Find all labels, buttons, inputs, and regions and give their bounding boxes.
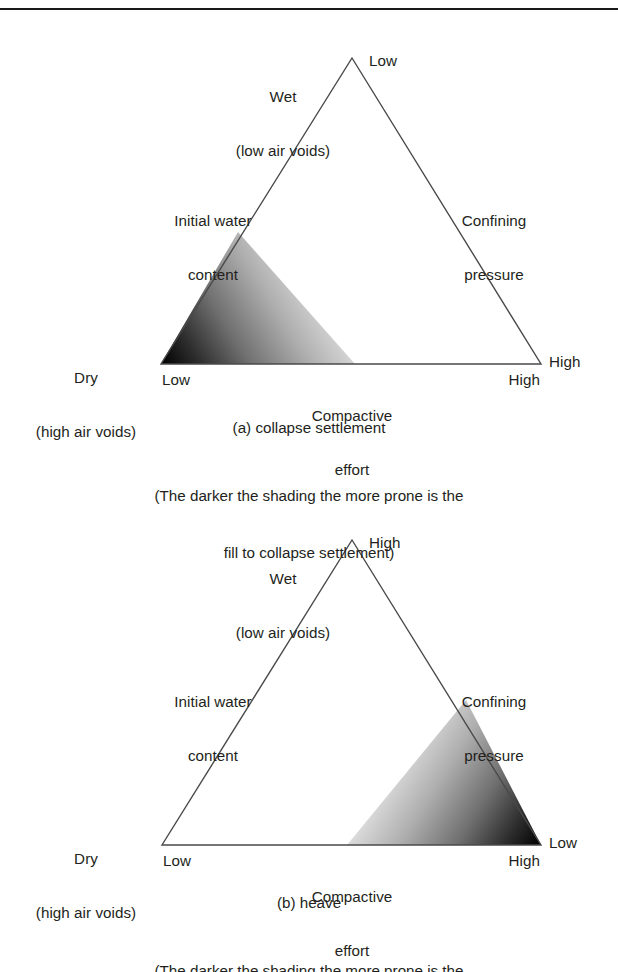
figure-b-left-axis-line1: Initial water [174, 693, 251, 711]
figure-a-left-axis-line2: content [174, 266, 251, 284]
figure-b-apex-right-label: High [369, 534, 400, 552]
figure-b-right-axis-line2: pressure [462, 747, 527, 765]
figure-a-base-low-label: Low [162, 371, 190, 389]
figure-a-dry-line2: (high air voids) [36, 423, 136, 441]
figure-a-right-axis-line1: Confining [462, 212, 527, 230]
figure-b-bottom-right-label: Low [549, 834, 577, 852]
figure-a-bottom-left-label: Dry (high air voids) [36, 333, 136, 477]
figure-a-wet-block: Wet (low air voids) [236, 52, 330, 196]
figure-b-dry-line2: (high air voids) [36, 904, 136, 922]
figure-a-dry-line1: Dry [36, 369, 136, 387]
figure-b-dry-line1: Dry [36, 850, 136, 868]
figure-a-bottom-right-label: High [549, 353, 580, 371]
figure-b-wet-line2: (low air voids) [236, 624, 330, 642]
figure-b-wet-line1: Wet [236, 570, 330, 588]
figure-a-base-high-label: High [509, 371, 540, 389]
figure-b-base-low-label: Low [163, 852, 191, 870]
figure-b-right-axis-line1: Confining [462, 693, 527, 711]
figure-a-left-axis-line1: Initial water [174, 212, 251, 230]
figure-a-caption: (a) collapse settlement [233, 418, 386, 437]
figure-a-left-axis-label: Initial water content [174, 176, 251, 320]
figure-a-wet-line1: Wet [236, 88, 330, 106]
figure-a-apex-right-label: Low [369, 52, 397, 70]
figure-b-note-line1: (The darker the shading the more prone i… [155, 961, 464, 972]
figure-b-note: (The darker the shading the more prone i… [155, 923, 464, 972]
figure-b-base-high-label: High [509, 852, 540, 870]
figure-b-right-axis-label: Confining pressure [462, 657, 527, 801]
figure-b-left-axis-line2: content [174, 747, 251, 765]
figure-page: Wet (low air voids) Low Initial water co… [0, 0, 618, 972]
figure-a-note-line1: (The darker the shading the more prone i… [155, 486, 464, 505]
figure-a-right-axis-label: Confining pressure [462, 176, 527, 320]
figure-b-caption: (b) heave [277, 893, 341, 912]
figure-a-wet-line2: (low air voids) [236, 142, 330, 160]
figure-b-bottom-left-label: Dry (high air voids) [36, 814, 136, 958]
figure-a-right-axis-line2: pressure [462, 266, 527, 284]
figure-b-left-axis-label: Initial water content [174, 657, 251, 801]
